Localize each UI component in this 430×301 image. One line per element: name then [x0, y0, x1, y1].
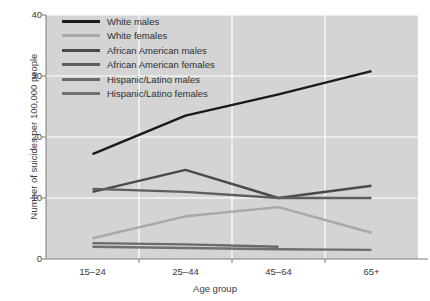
legend-swatch: [62, 34, 100, 37]
legend-swatch: [62, 49, 100, 52]
legend-item-3: African American females: [62, 58, 215, 73]
legend-label: White males: [107, 17, 159, 27]
legend-swatch: [62, 20, 100, 23]
x-tick-label: 45–64: [249, 266, 309, 277]
legend-item-1: White females: [62, 29, 215, 44]
legend-swatch: [62, 92, 100, 95]
x-tick-label: 65+: [342, 266, 402, 277]
legend-item-0: White males: [62, 14, 215, 29]
legend-swatch: [62, 78, 100, 81]
chart-legend: White malesWhite femalesAfrican American…: [62, 14, 215, 101]
legend-item-4: Hispanic/Latino males: [62, 72, 215, 87]
legend-label: African American females: [107, 60, 215, 70]
legend-swatch: [62, 63, 100, 66]
legend-item-5: Hispanic/Latino females: [62, 87, 215, 102]
x-tick-label: 15–24: [63, 266, 123, 277]
legend-label: Hispanic/Latino females: [107, 89, 208, 99]
legend-label: Hispanic/Latino males: [107, 75, 200, 85]
legend-label: White females: [107, 31, 167, 41]
x-tick-label: 25–44: [156, 266, 216, 277]
legend-label: African American males: [107, 46, 207, 56]
legend-item-2: African American males: [62, 43, 215, 58]
